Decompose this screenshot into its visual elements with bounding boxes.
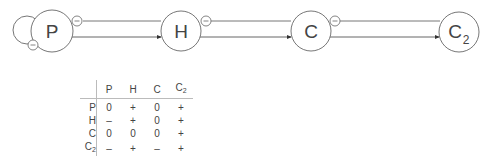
table-cell: 0 — [97, 127, 122, 140]
svg-text:C: C — [448, 21, 462, 42]
minus-badge-icon — [28, 40, 38, 50]
minus-badge-icon — [201, 16, 211, 26]
table-row: C2 – + – + — [80, 140, 193, 156]
table-cell: 0 — [121, 127, 145, 140]
table-cell: – — [145, 140, 169, 156]
corner-cell — [80, 80, 97, 99]
row-header: C — [80, 127, 97, 140]
svg-text:P: P — [46, 21, 59, 42]
node-c: C — [291, 11, 331, 51]
table-cell: + — [169, 127, 193, 140]
node-c2: C 2 — [439, 12, 479, 52]
node-h: H — [161, 11, 201, 51]
table-cell: 0 — [145, 114, 169, 127]
table-row: P 0 + 0 + — [80, 99, 193, 115]
row-header: C2 — [80, 140, 97, 156]
interaction-matrix: P H C C2 P 0 + 0 + H – + 0 + C 0 0 0 + C… — [80, 80, 193, 156]
svg-text:2: 2 — [463, 33, 470, 47]
table-cell: 0 — [145, 99, 169, 115]
column-header: C — [145, 80, 169, 99]
svg-text:H: H — [174, 21, 188, 42]
table-cell: + — [121, 140, 145, 156]
table-row: C 0 0 0 + — [80, 127, 193, 140]
row-header: H — [80, 114, 97, 127]
column-header: C2 — [169, 80, 193, 99]
table-cell: + — [169, 99, 193, 115]
table-row: H – + 0 + — [80, 114, 193, 127]
table-cell: – — [97, 140, 122, 156]
column-header: H — [121, 80, 145, 99]
table-cell: + — [169, 140, 193, 156]
table-header-row: P H C C2 — [80, 80, 193, 99]
minus-badge-icon — [330, 16, 340, 26]
table-cell: 0 — [97, 99, 122, 115]
table-cell: + — [121, 114, 145, 127]
minus-badge-icon — [72, 16, 82, 26]
table-cell: + — [121, 99, 145, 115]
interaction-diagram: P H C C 2 — [0, 0, 492, 75]
column-header: P — [97, 80, 122, 99]
row-header: P — [80, 99, 97, 115]
table-cell: + — [169, 114, 193, 127]
svg-text:C: C — [304, 21, 318, 42]
table-cell: – — [97, 114, 122, 127]
table-cell: 0 — [145, 127, 169, 140]
